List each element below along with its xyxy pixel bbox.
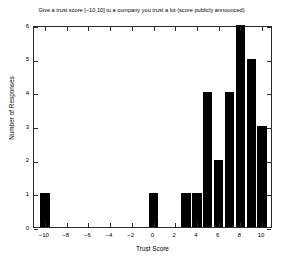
x-tick-mark: [45, 27, 46, 31]
x-tick-mark: [154, 223, 155, 227]
y-tick-label: 6: [5, 23, 29, 30]
y-tick-mark: [34, 195, 38, 196]
y-tick-mark: [34, 61, 38, 62]
histogram-bar: [40, 193, 49, 227]
x-tick-mark: [132, 223, 133, 227]
x-tick-mark: [262, 223, 263, 227]
x-tick-mark: [67, 223, 68, 227]
y-axis-label: Number of Responses: [8, 48, 16, 168]
x-axis-label: Trust Score: [33, 245, 272, 253]
x-tick-mark: [132, 27, 133, 31]
histogram-bar: [236, 25, 245, 227]
x-tick-mark: [45, 223, 46, 227]
y-tick-mark: [267, 195, 271, 196]
x-tick-mark: [67, 27, 68, 31]
chart-title: Give a trust score [−10,10] to a company…: [0, 6, 283, 14]
x-tick-mark: [154, 27, 155, 31]
y-tick-mark: [267, 94, 271, 95]
histogram-bar: [203, 92, 212, 227]
x-tick-mark: [262, 27, 263, 31]
histogram-bar: [192, 193, 201, 227]
y-tick-label: 0: [5, 225, 29, 232]
histogram-figure: Give a trust score [−10,10] to a company…: [0, 0, 283, 260]
x-tick-mark: [219, 223, 220, 227]
x-tick-mark: [197, 223, 198, 227]
histogram-bar: [214, 160, 223, 227]
histogram-bar: [181, 193, 190, 227]
x-tick-mark: [175, 223, 176, 227]
histogram-bar: [247, 59, 256, 227]
x-tick-mark: [88, 223, 89, 227]
x-tick-mark: [240, 27, 241, 31]
histogram-bar: [225, 92, 234, 227]
y-tick-mark: [34, 94, 38, 95]
x-tick-mark: [110, 27, 111, 31]
x-tick-mark: [175, 27, 176, 31]
y-tick-mark: [34, 162, 38, 163]
y-tick-mark: [267, 162, 271, 163]
x-tick-mark: [88, 27, 89, 31]
x-tick-mark: [110, 223, 111, 227]
y-tick-mark: [34, 27, 38, 28]
y-tick-mark: [267, 229, 271, 230]
histogram-bar: [149, 193, 158, 227]
histogram-bar: [257, 126, 266, 227]
y-tick-mark: [34, 229, 38, 230]
x-tick-mark: [219, 27, 220, 31]
y-tick-mark: [267, 61, 271, 62]
y-tick-mark: [34, 128, 38, 129]
y-tick-mark: [267, 27, 271, 28]
y-tick-mark: [267, 128, 271, 129]
y-tick-label: 1: [5, 191, 29, 198]
x-tick-mark: [197, 27, 198, 31]
plot-area: [33, 26, 272, 228]
x-tick-mark: [240, 223, 241, 227]
x-tick-label: 10: [246, 232, 276, 239]
